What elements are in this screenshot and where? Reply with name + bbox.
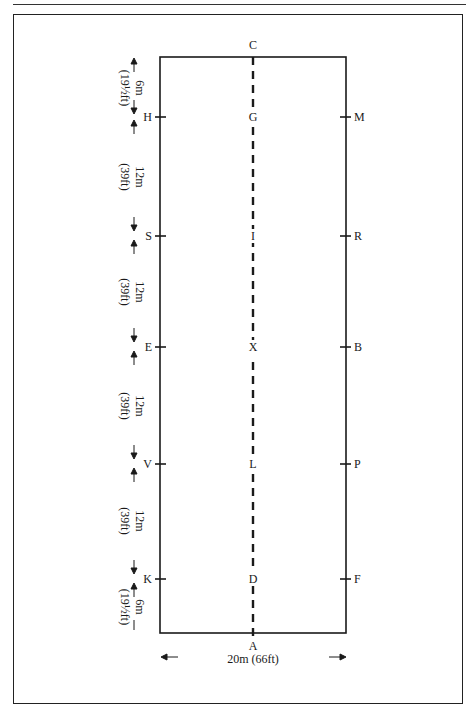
marker-m: M [354, 110, 365, 124]
marker-s: S [145, 229, 152, 243]
dim-label-metric: 6m [133, 599, 147, 615]
dim-label-imperial: (39ft) [118, 163, 132, 190]
marker-h: H [143, 110, 152, 124]
dim-label-imperial: (39ft) [118, 507, 132, 534]
marker-a: A [249, 639, 258, 653]
marker-c: C [249, 38, 257, 52]
marker-f: F [354, 572, 361, 586]
side-dimension-arrows [131, 58, 137, 630]
marker-l: L [249, 457, 256, 471]
marker-i: I [251, 229, 255, 243]
marker-x: X [249, 340, 258, 354]
centerline-markers: G I X L D [246, 110, 260, 586]
marker-k: K [143, 572, 152, 586]
marker-r: R [354, 229, 362, 243]
marker-e: E [145, 340, 152, 354]
dim-label-metric: 12m [133, 166, 147, 188]
dim-label-imperial: (39ft) [118, 392, 132, 419]
dim-label-imperial: (19½ft) [118, 589, 132, 625]
dim-label-metric: 12m [133, 281, 147, 303]
marker-v: V [143, 457, 152, 471]
dim-label-imperial: (39ft) [118, 278, 132, 305]
dim-label-imperial: (19½ft) [118, 70, 132, 106]
dim-label-metric: 12m [133, 395, 147, 417]
dim-label-metric: 6m [133, 80, 147, 96]
marker-p: P [354, 457, 361, 471]
marker-b: B [354, 340, 362, 354]
marker-g: G [249, 110, 258, 124]
marker-d: D [249, 572, 258, 586]
side-dimension-labels: 6m (19½ft) 12m (39ft) 12m (39ft) 12m (39… [118, 70, 147, 625]
width-dimension-label: 20m (66ft) [227, 652, 279, 666]
dim-label-metric: 12m [133, 510, 147, 532]
